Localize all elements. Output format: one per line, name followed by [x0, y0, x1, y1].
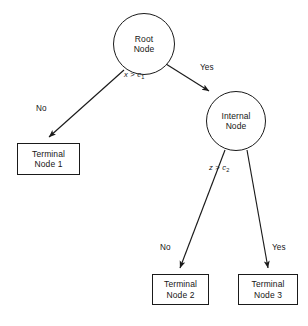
node-internal-line2: Node [226, 121, 247, 132]
node-internal[interactable]: Internal Node [206, 91, 266, 151]
node-root-line1: Root [135, 34, 153, 45]
edge-root-to-terminal1 [49, 70, 124, 137]
node-terminal-3-line1: Terminal [252, 279, 285, 290]
edge-label-root-no: No [36, 104, 47, 114]
node-root[interactable]: Root Node [113, 13, 175, 75]
node-terminal-3[interactable]: Terminal Node 3 [238, 274, 298, 305]
decision-tree-diagram: Root Node Internal Node Terminal Node 1 … [0, 0, 308, 326]
split-condition-root-subscript: 1 [141, 74, 144, 80]
split-condition-internal: z > c2 [209, 163, 230, 173]
node-terminal-1-line2: Node 1 [34, 159, 62, 170]
edge-label-internal-yes: Yes [272, 243, 286, 253]
split-condition-root-operator: > [128, 70, 137, 79]
node-terminal-1[interactable]: Terminal Node 1 [17, 143, 80, 175]
node-terminal-2-line1: Terminal [164, 279, 197, 290]
node-root-line2: Node [134, 44, 155, 55]
edge-label-root-yes: Yes [200, 63, 214, 73]
node-internal-line1: Internal [221, 111, 250, 122]
node-terminal-2[interactable]: Terminal Node 2 [152, 274, 209, 305]
node-terminal-3-line2: Node 3 [254, 290, 282, 301]
split-condition-internal-subscript: 2 [226, 167, 229, 173]
edge-label-internal-no: No [160, 243, 171, 253]
node-terminal-1-line1: Terminal [32, 149, 65, 160]
split-condition-root: x > c1 [124, 70, 145, 80]
edge-internal-to-terminal3 [247, 150, 268, 268]
split-condition-internal-operator: > [213, 163, 222, 172]
node-terminal-2-line2: Node 2 [166, 290, 194, 301]
